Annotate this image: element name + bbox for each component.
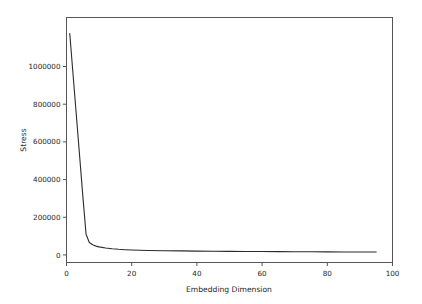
y-axis-label: Stress — [19, 128, 28, 151]
x-tick-label: 40 — [192, 269, 202, 278]
x-tick-label: 100 — [386, 269, 400, 278]
x-tick-label: 20 — [127, 269, 137, 278]
chart-figure: 020406080100 020000040000060000080000010… — [0, 0, 422, 304]
y-tick-label: 200000 — [33, 213, 61, 222]
stress-vs-embedding-dimension-chart: 020406080100 020000040000060000080000010… — [0, 0, 422, 304]
x-tick-label: 0 — [64, 269, 69, 278]
y-tick-label: 400000 — [33, 175, 61, 184]
y-tick-label: 1000000 — [28, 62, 60, 71]
y-tick-label: 0 — [56, 251, 61, 260]
x-axis-label: Embedding Dimension — [186, 285, 272, 294]
x-tick-label: 60 — [258, 269, 268, 278]
x-tick-label: 80 — [323, 269, 333, 278]
y-tick-label: 800000 — [33, 100, 61, 109]
y-tick-label: 600000 — [33, 137, 61, 146]
figure-background — [0, 0, 422, 304]
